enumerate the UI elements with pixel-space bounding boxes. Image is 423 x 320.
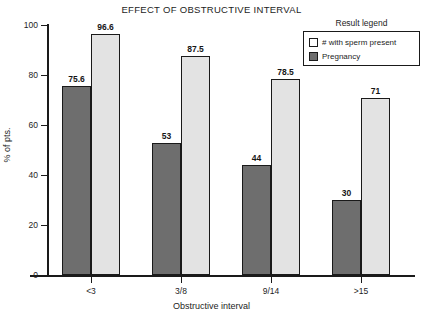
- x-tick-label: 9/14: [241, 286, 301, 296]
- x-axis-line: [30, 275, 415, 277]
- y-tick-label: 100: [8, 20, 38, 30]
- bar: [361, 98, 390, 276]
- chart-page: EFFECT OF OBSTRUCTIVE INTERVAL % of pts.…: [0, 0, 423, 320]
- x-tick-mark: [271, 276, 272, 283]
- x-tick-mark: [181, 276, 182, 283]
- legend-item: # with sperm present: [309, 35, 396, 49]
- bar: [91, 34, 120, 276]
- legend-item-label: # with sperm present: [322, 38, 396, 47]
- y-tick-mark: [41, 175, 48, 176]
- bar: [181, 56, 210, 275]
- y-tick-mark: [41, 275, 48, 276]
- x-tick-mark: [91, 276, 92, 283]
- y-tick-label: 0: [8, 270, 38, 280]
- legend-box: # with sperm presentPregnancy: [303, 31, 420, 66]
- y-tick-label: 80: [8, 70, 38, 80]
- x-axis-title: Obstructive interval: [0, 301, 423, 311]
- bar: [332, 200, 361, 275]
- bar-value-label: 71: [351, 86, 401, 96]
- y-tick-mark: [41, 225, 48, 226]
- bar: [152, 143, 181, 276]
- bar: [271, 79, 300, 275]
- bar-value-label: 78.5: [261, 67, 311, 77]
- legend-item: Pregnancy: [309, 49, 360, 63]
- x-tick-mark: [361, 276, 362, 283]
- y-tick-label: 60: [8, 120, 38, 130]
- x-tick-label: <3: [61, 286, 121, 296]
- bar: [62, 86, 91, 275]
- chart-title: EFFECT OF OBSTRUCTIVE INTERVAL: [0, 4, 423, 15]
- x-tick-label: >15: [331, 286, 391, 296]
- y-tick-mark: [41, 75, 48, 76]
- x-tick-label: 3/8: [151, 286, 211, 296]
- y-tick-label: 20: [8, 220, 38, 230]
- bar: [242, 165, 271, 275]
- y-tick-mark: [41, 25, 48, 26]
- legend-swatch-icon: [309, 38, 318, 47]
- y-tick-label: 40: [8, 170, 38, 180]
- bar-value-label: 96.6: [81, 22, 131, 32]
- legend-swatch-icon: [309, 52, 318, 61]
- legend-title: Result legend: [303, 18, 420, 28]
- y-tick-mark: [41, 125, 48, 126]
- legend-item-label: Pregnancy: [322, 52, 360, 61]
- bar-value-label: 87.5: [171, 44, 221, 54]
